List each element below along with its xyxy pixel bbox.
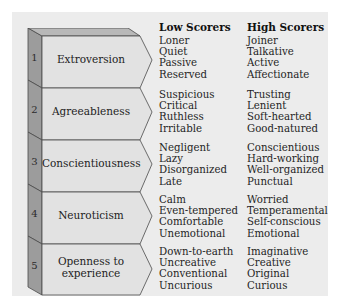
trait: Uncurious [159, 280, 233, 291]
trait: Disorganized [159, 164, 227, 175]
trait: Well-organized [247, 164, 324, 175]
trait: Conventional [159, 268, 233, 279]
factor-number: 2 [28, 104, 41, 115]
factor-name-line2: experience [42, 267, 140, 279]
trait: Calm [159, 194, 238, 205]
trait: Trusting [247, 89, 318, 100]
factor-row-neuroticism: 4 Neuroticism Calm Even-tempered Comfort… [0, 184, 337, 237]
factor-name: Neuroticism [42, 209, 140, 221]
trait: Imaginative [247, 246, 308, 257]
trait: Comfortable [159, 216, 238, 227]
factor-number: 4 [28, 208, 41, 219]
trait: Soft-hearted [247, 111, 318, 122]
trait: Original [247, 268, 308, 279]
low-scorer-traits: Suspicious Critical Ruthless Irritable [159, 89, 214, 134]
factor-number: 1 [28, 52, 41, 63]
high-scorer-traits: Trusting Lenient Soft-hearted Good-natur… [247, 89, 318, 134]
trait: Talkative [247, 46, 309, 57]
low-scorer-traits: Down-to-earth Uncreative Conventional Un… [159, 246, 233, 291]
low-scorer-traits: Loner Quiet Passive Reserved [159, 35, 207, 80]
trait: Reserved [159, 69, 207, 80]
trait: Suspicious [159, 89, 214, 100]
factor-name: Openness to experience [42, 255, 140, 279]
factor-row-extroversion: 1 Extroversion Loner Quiet Passive Reser… [0, 28, 337, 81]
trait: Even-tempered [159, 205, 238, 216]
trait: Negligent [159, 142, 227, 153]
high-scorer-traits: Conscientious Hard-working Well-organize… [247, 142, 324, 187]
trait: Lazy [159, 153, 227, 164]
high-scorer-traits: Imaginative Creative Original Curious [247, 246, 308, 291]
trait: Passive [159, 57, 207, 68]
trait: Conscientious [247, 142, 324, 153]
trait: Hard-working [247, 153, 324, 164]
trait: Joiner [247, 35, 309, 46]
trait: Ruthless [159, 111, 214, 122]
trait: Quiet [159, 46, 207, 57]
low-scorer-traits: Calm Even-tempered Comfortable Unemotion… [159, 194, 238, 239]
trait: Self-conscious [247, 216, 328, 227]
trait: Temperamental [247, 205, 328, 216]
trait: Affectionate [247, 69, 309, 80]
factor-number: 3 [28, 156, 41, 167]
trait: Loner [159, 35, 207, 46]
factor-name-line1: Openness to [42, 255, 140, 267]
trait: Uncreative [159, 257, 233, 268]
trait: Worried [247, 194, 328, 205]
factor-row-conscientiousness: 3 Conscientiousness Negligent Lazy Disor… [0, 132, 337, 185]
trait: Creative [247, 257, 308, 268]
trait: Down-to-earth [159, 246, 233, 257]
high-scorer-traits: Joiner Talkative Active Affectionate [247, 35, 309, 80]
high-scorer-traits: Worried Temperamental Self-conscious Emo… [247, 194, 328, 239]
trait: Lenient [247, 100, 318, 111]
factor-name: Conscientiousness [42, 157, 140, 169]
factor-name: Extroversion [42, 53, 140, 65]
factor-number: 5 [28, 260, 41, 271]
factor-name: Agreeableness [42, 105, 140, 117]
trait: Active [247, 57, 309, 68]
factor-row-openness: 5 Openness to experience Down-to-earth U… [0, 236, 337, 289]
low-scorer-traits: Negligent Lazy Disorganized Late [159, 142, 227, 187]
factor-row-agreeableness: 2 Agreeableness Suspicious Critical Ruth… [0, 80, 337, 133]
trait: Curious [247, 280, 308, 291]
trait: Critical [159, 100, 214, 111]
